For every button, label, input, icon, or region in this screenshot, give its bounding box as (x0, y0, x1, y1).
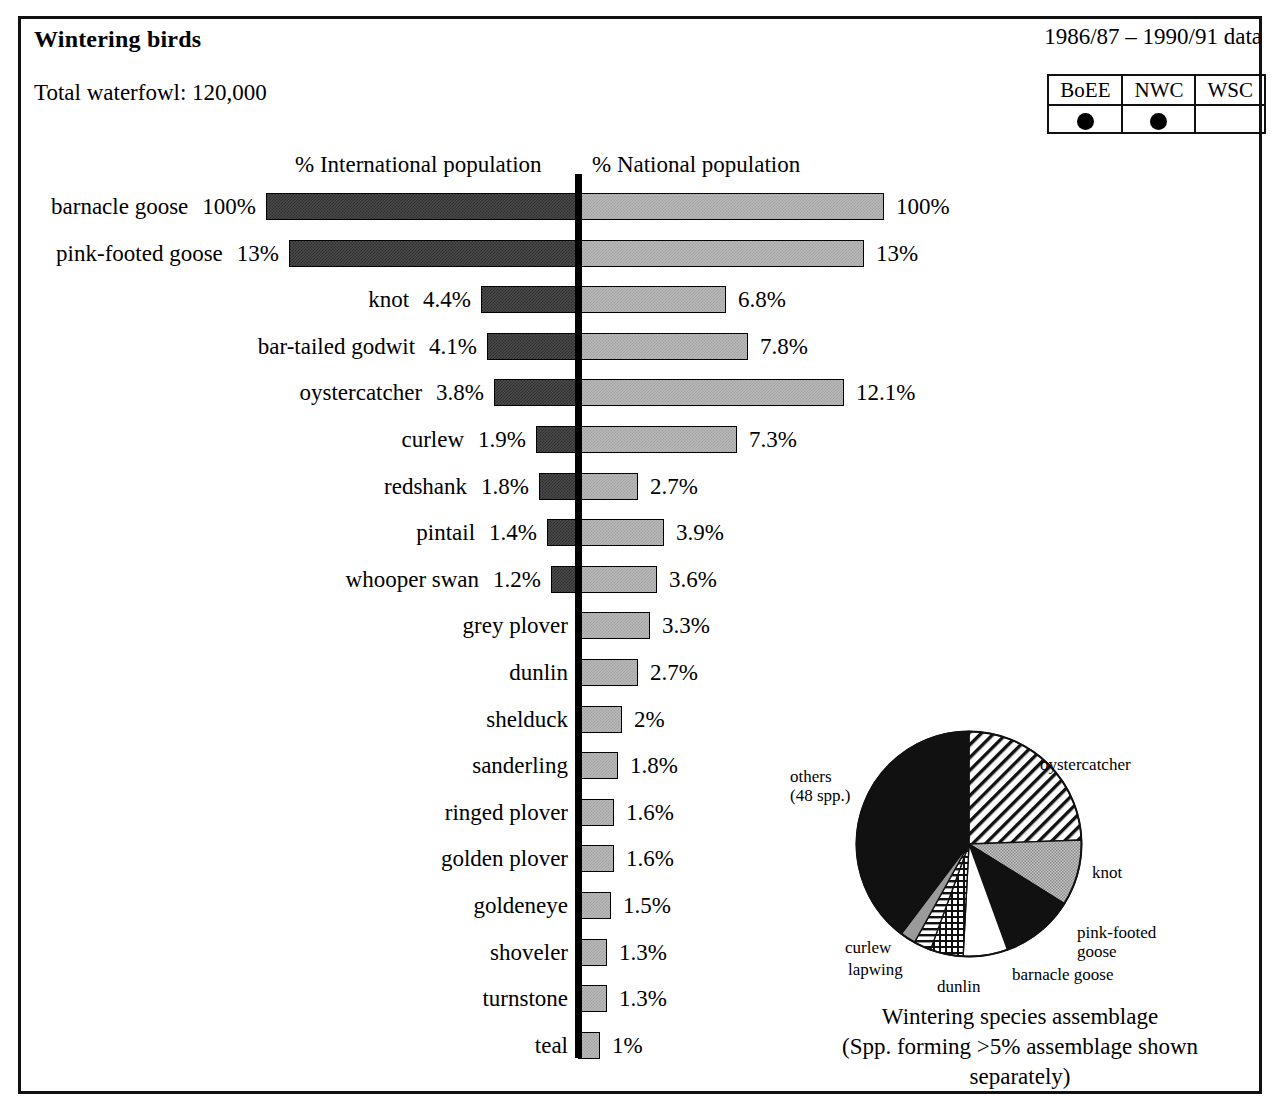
bar-row-label: oystercatcher3.8% (30, 376, 484, 409)
national-value: 6.8% (738, 283, 786, 316)
bar-row: pintail1.4%3.9% (0, 516, 1244, 549)
bar-international (547, 519, 578, 546)
pie-chart-block: others (48 spp.) oystercatcher knot pink… (790, 725, 1250, 1070)
bar-row: whooper swan1.2%3.6% (0, 563, 1244, 596)
survey-mark-nwc (1122, 105, 1195, 133)
bar-row-label: pintail1.4% (30, 516, 537, 549)
national-value: 1.8% (630, 749, 678, 782)
bar-national (578, 659, 638, 686)
pie-label-barnacle-goose: barnacle goose (1012, 965, 1113, 984)
national-value: 2% (634, 703, 665, 736)
bar-national (578, 612, 650, 639)
species-name: teal (535, 1033, 568, 1058)
bar-row-label: sanderling (30, 749, 568, 782)
survey-legend-mark-row (1048, 105, 1265, 133)
page-title: Wintering birds (34, 26, 201, 53)
species-name: goldeneye (473, 893, 568, 918)
bar-row-label: whooper swan1.2% (30, 563, 541, 596)
species-name: whooper swan (346, 567, 480, 592)
bar-row-label: ringed plover (30, 796, 568, 829)
survey-column-wsc: WSC (1195, 75, 1265, 105)
bar-row: bar-tailed godwit4.1%7.8% (0, 330, 1244, 363)
survey-legend-table: BoEE NWC WSC (1047, 74, 1266, 134)
bar-row: dunlin2.7% (0, 656, 1244, 689)
bar-row-label: shelduck (30, 703, 568, 736)
national-value: 3.6% (669, 563, 717, 596)
pie-label-dunlin: dunlin (937, 977, 980, 996)
filled-dot-icon (1150, 113, 1167, 130)
bar-national (578, 426, 737, 453)
bar-row-label: golden plover (30, 842, 568, 875)
bar-national (578, 519, 664, 546)
bar-row: oystercatcher3.8%12.1% (0, 376, 1244, 409)
pie-chart-caption: Wintering species assemblage (Spp. formi… (790, 1002, 1250, 1092)
bar-row-label: pink-footed goose13% (30, 237, 279, 270)
center-axis-line (575, 174, 582, 1058)
bar-national (578, 799, 614, 826)
bar-row-label: barnacle goose100% (30, 190, 256, 223)
total-waterfowl-text: Total waterfowl: 120,000 (34, 80, 267, 106)
bar-national (578, 892, 611, 919)
national-value: 1.5% (623, 889, 671, 922)
survey-mark-wsc (1195, 105, 1265, 133)
bar-international (551, 566, 578, 593)
species-name: turnstone (482, 986, 568, 1011)
pie-caption-subtitle: (Spp. forming >5% assemblage shown separ… (790, 1032, 1250, 1092)
national-value: 2.7% (650, 470, 698, 503)
species-name: sanderling (472, 753, 568, 778)
national-value: 1.6% (626, 796, 674, 829)
pie-label-knot: knot (1092, 863, 1122, 882)
bar-international (494, 379, 578, 406)
axis-caption-international: % International population (295, 152, 542, 178)
survey-legend-header-row: BoEE NWC WSC (1048, 75, 1265, 105)
international-value: 1.9% (478, 427, 526, 452)
bar-international (536, 426, 578, 453)
bar-national (578, 939, 607, 966)
bar-national (578, 379, 844, 406)
species-name: shelduck (486, 707, 568, 732)
national-value: 1.3% (619, 982, 667, 1015)
bar-international (539, 473, 578, 500)
pie-label-pink-footed-goose: pink-footed goose (1077, 923, 1156, 961)
bar-international (266, 193, 578, 220)
national-value: 12.1% (856, 376, 915, 409)
bar-international (289, 240, 578, 267)
bar-row: grey plover3.3% (0, 609, 1244, 642)
international-value: 100% (202, 194, 256, 219)
bar-national (578, 473, 638, 500)
pie-slice (969, 732, 1081, 845)
survey-column-boee: BoEE (1048, 75, 1122, 105)
international-value: 1.2% (493, 567, 541, 592)
data-period-label: 1986/87 – 1990/91 data (1044, 24, 1262, 50)
bar-national (578, 333, 748, 360)
national-value: 3.9% (676, 516, 724, 549)
bar-national (578, 985, 607, 1012)
species-name: bar-tailed godwit (258, 334, 415, 359)
national-value: 7.8% (760, 330, 808, 363)
national-value: 1% (612, 1029, 643, 1062)
pie-label-lapwing: lapwing (848, 960, 903, 979)
bar-row: barnacle goose100%100% (0, 190, 1244, 223)
species-name: pintail (416, 520, 475, 545)
national-value: 13% (876, 237, 918, 270)
bar-row: knot4.4%6.8% (0, 283, 1244, 316)
bar-international (481, 286, 578, 313)
species-name: ringed plover (445, 800, 568, 825)
bar-row: curlew1.9%7.3% (0, 423, 1244, 456)
bar-national (578, 240, 864, 267)
bar-row: redshank1.8%2.7% (0, 470, 1244, 503)
national-value: 3.3% (662, 609, 710, 642)
bar-national (578, 566, 657, 593)
national-value: 2.7% (650, 656, 698, 689)
bar-row: pink-footed goose13%13% (0, 237, 1244, 270)
bar-national (578, 845, 614, 872)
bar-row-label: redshank1.8% (30, 470, 529, 503)
species-name: knot (368, 287, 409, 312)
pie-label-oystercatcher: oystercatcher (1040, 755, 1131, 774)
bar-row-label: goldeneye (30, 889, 568, 922)
survey-column-nwc: NWC (1122, 75, 1195, 105)
bar-national (578, 193, 884, 220)
national-value: 7.3% (749, 423, 797, 456)
pie-label-others: others (48 spp.) (790, 767, 850, 805)
filled-dot-icon (1077, 113, 1094, 130)
